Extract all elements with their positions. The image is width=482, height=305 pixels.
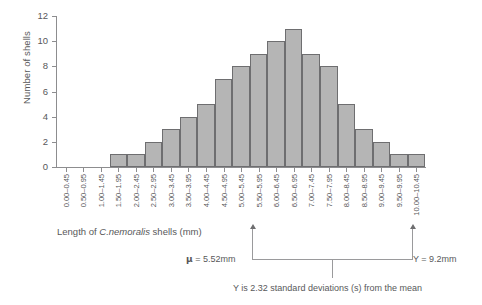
y-tick-label-12: 12 [22, 10, 48, 21]
x-label-slot: 1.50–1.95 [110, 174, 128, 220]
mu-symbol: μ [186, 254, 193, 264]
x-label-slot: 8.00–8.45 [338, 174, 356, 220]
sd-bracket [252, 259, 413, 260]
x-tick-slot [232, 168, 250, 173]
histogram-bar [285, 29, 303, 167]
x-tick-mark [66, 168, 67, 172]
histogram-bar [267, 41, 285, 167]
x-tick-slot [215, 168, 233, 173]
x-tick-slot [127, 168, 145, 173]
bar-slot [127, 16, 145, 167]
bar-slot [250, 16, 268, 167]
histogram-figure: Number of shells 024681012 0.00–0.450.50… [0, 0, 482, 305]
x-tick-label: 1.00–1.45 [96, 174, 105, 207]
x-tick-label: 7.50–7.95 [324, 174, 333, 207]
bar-slot [57, 16, 75, 167]
x-label-slot: 0.50–0.95 [75, 174, 93, 220]
x-label-slot: 4.50–4.95 [215, 174, 233, 220]
x-tick-mark [101, 168, 102, 172]
x-axis-tick-labels: 0.00–0.450.50–0.951.00–1.451.50–1.952.00… [57, 174, 425, 220]
x-tick-slot [162, 168, 180, 173]
bar-series [57, 16, 425, 167]
x-tick-label: 8.50–8.95 [359, 174, 368, 207]
mean-value: = 5.52mm [193, 254, 236, 264]
x-tick-mark [136, 168, 137, 172]
x-tick-label: 9.00–9.45 [377, 174, 386, 207]
x-tick-mark [381, 168, 382, 172]
x-label-slot: 9.50–9.95 [390, 174, 408, 220]
plot-area [57, 16, 425, 167]
x-tick-label: 9.50–9.95 [394, 174, 403, 207]
y-tick-label-8: 8 [22, 60, 48, 71]
histogram-bar [320, 66, 338, 167]
y-tick-label-2: 2 [22, 136, 48, 147]
x-tick-mark [346, 168, 347, 172]
mean-label: μ = 5.52mm [186, 254, 235, 264]
x-axis-title-prefix: Length of [57, 226, 99, 237]
bar-slot [355, 16, 373, 167]
x-tick-label: 8.00–8.45 [342, 174, 351, 207]
x-tick-slot [197, 168, 215, 173]
x-tick-mark [188, 168, 189, 172]
x-tick-label: 7.00–7.45 [307, 174, 316, 207]
bar-slot [145, 16, 163, 167]
histogram-bar [110, 154, 128, 167]
x-tick-mark [241, 168, 242, 172]
x-tick-label: 6.50–6.95 [289, 174, 298, 207]
x-tick-slot [408, 168, 426, 173]
bar-slot [338, 16, 356, 167]
x-axis-title-suffix: shells (mm) [150, 226, 202, 237]
x-tick-slot [390, 168, 408, 173]
x-tick-label: 4.50–4.95 [219, 174, 228, 207]
x-tick-label: 5.50–5.95 [254, 174, 263, 207]
x-tick-slot [75, 168, 93, 173]
x-tick-label: 3.00–3.45 [166, 174, 175, 207]
x-tick-mark [416, 168, 417, 172]
histogram-bar [162, 129, 180, 167]
bar-slot [267, 16, 285, 167]
bar-slot [408, 16, 426, 167]
x-tick-mark [206, 168, 207, 172]
histogram-bar [145, 142, 163, 167]
y-tick-label-0: 0 [22, 161, 48, 172]
x-tick-slot [250, 168, 268, 173]
histogram-bar [390, 154, 408, 167]
y-value-label: Y = 9.2mm [413, 254, 457, 264]
x-tick-label: 2.00–2.45 [131, 174, 140, 207]
histogram-bar [250, 54, 268, 167]
histogram-bar [338, 104, 356, 167]
sd-bracket-stem [332, 259, 333, 278]
bar-slot [373, 16, 391, 167]
x-label-slot: 4.00–4.45 [197, 174, 215, 220]
x-tick-slot [92, 168, 110, 173]
x-tick-mark [83, 168, 84, 172]
x-label-slot: 7.00–7.45 [302, 174, 320, 220]
x-label-slot: 1.00–1.45 [92, 174, 110, 220]
x-axis-ticks [57, 168, 425, 173]
x-tick-slot [180, 168, 198, 173]
x-tick-label: 0.50–0.95 [79, 174, 88, 207]
histogram-bar [302, 54, 320, 167]
bar-slot [92, 16, 110, 167]
y-tick-label-6: 6 [22, 86, 48, 97]
x-axis-title-species: C.nemoralis [99, 226, 150, 237]
x-tick-slot [145, 168, 163, 173]
mean-arrow [252, 228, 253, 260]
x-tick-slot [320, 168, 338, 173]
x-tick-label: 5.00–5.45 [237, 174, 246, 207]
x-tick-mark [153, 168, 154, 172]
histogram-bar [215, 79, 233, 167]
bar-slot [215, 16, 233, 167]
x-label-slot: 5.50–5.95 [250, 174, 268, 220]
x-tick-label: 2.50–2.95 [149, 174, 158, 207]
bar-slot [75, 16, 93, 167]
histogram-bar [355, 129, 373, 167]
histogram-bar [180, 117, 198, 167]
x-tick-label: 10.00–10.45 [412, 174, 421, 216]
x-label-slot: 0.00–0.45 [57, 174, 75, 220]
x-tick-label: 1.50–1.95 [114, 174, 123, 207]
y-tick-label-4: 4 [22, 111, 48, 122]
x-label-slot: 7.50–7.95 [320, 174, 338, 220]
x-tick-label: 6.00–6.45 [272, 174, 281, 207]
x-tick-label: 0.00–0.45 [61, 174, 70, 207]
